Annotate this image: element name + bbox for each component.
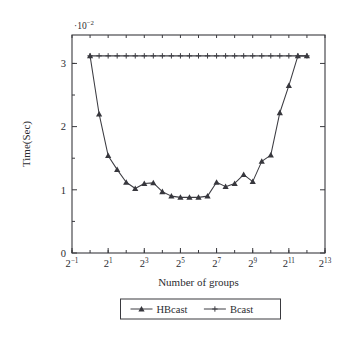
data-point-marker-triangle bbox=[277, 110, 283, 116]
data-point-marker-triangle bbox=[105, 153, 111, 159]
legend: HBcastBcast bbox=[121, 299, 281, 319]
x-axis: 2−12123252729211213Number of groups bbox=[66, 35, 332, 288]
y-axis: 0123 bbox=[61, 58, 325, 259]
data-point-marker-triangle bbox=[268, 152, 274, 158]
x-axis-title-label: Number of groups bbox=[158, 276, 239, 288]
data-point-marker-triangle bbox=[286, 82, 292, 88]
data-point-marker-triangle bbox=[213, 179, 219, 185]
data-point-marker-triangle bbox=[204, 193, 210, 199]
legend-entry-label: HBcast bbox=[157, 304, 188, 315]
series-line-hbcast bbox=[90, 56, 307, 198]
data-point-marker-triangle bbox=[96, 111, 102, 117]
legend-entry-hbcast[interactable]: HBcast bbox=[131, 304, 188, 315]
x-axis-tick-label: 29 bbox=[248, 257, 257, 269]
y-axis-title: Time(Sec) bbox=[20, 121, 33, 167]
y-axis-multiplier-label: ·10−2 bbox=[74, 19, 95, 31]
line-chart: ·10−20123Time(Sec)2−12123252729211213Num… bbox=[0, 0, 351, 339]
y-axis-multiplier: ·10−2 bbox=[74, 19, 95, 31]
x-axis-tick-label: 27 bbox=[212, 257, 221, 269]
plot-frame bbox=[72, 35, 325, 253]
data-point-marker-triangle bbox=[168, 193, 174, 199]
data-point-marker-triangle bbox=[132, 185, 138, 191]
x-axis-tick-label: 25 bbox=[176, 257, 185, 269]
data-point-marker-triangle bbox=[241, 172, 247, 178]
x-axis-tick-label: 23 bbox=[140, 257, 149, 269]
x-axis-tick-label: 2−1 bbox=[66, 257, 79, 269]
legend-entry-bcast[interactable]: Bcast bbox=[204, 304, 253, 315]
y-axis-title-label: Time(Sec) bbox=[20, 121, 33, 167]
y-axis-tick-label: 1 bbox=[61, 185, 66, 196]
x-axis-tick-label: 213 bbox=[319, 257, 332, 269]
data-point-marker-triangle bbox=[114, 166, 120, 172]
x-axis-tick-label: 21 bbox=[104, 257, 113, 269]
series-hbcast bbox=[87, 53, 310, 200]
chart-figure: ·10−20123Time(Sec)2−12123252729211213Num… bbox=[0, 0, 351, 339]
legend-entry-label: Bcast bbox=[230, 304, 253, 315]
y-axis-tick-label: 2 bbox=[61, 121, 66, 132]
data-point-marker-triangle bbox=[259, 158, 265, 164]
y-axis-tick-label: 3 bbox=[61, 58, 66, 69]
x-axis-tick-label: 211 bbox=[283, 257, 296, 269]
series-bcast bbox=[87, 53, 309, 58]
